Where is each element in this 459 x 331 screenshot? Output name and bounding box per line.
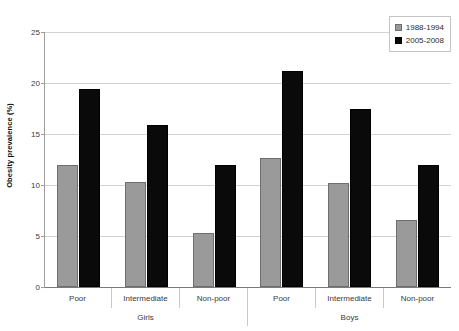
y-axis-title-label: Obesity prevalence (%) [5,103,14,188]
legend-item-1988-1994: 1988-1994 [395,21,444,34]
y-tick-label-20: 20 [18,79,40,88]
y-tick-label-5: 5 [18,232,40,241]
bar-boys-non-poor-1988-1994 [396,220,417,287]
category-label-boys-intermediate: Intermediate [316,288,384,308]
category-label-boys-poor: Poor [248,288,316,308]
category-label-girls-non-poor: Non-poor [180,288,248,308]
bar-girls-intermediate-1988-1994 [125,182,146,287]
bar-group-boys-intermediate [316,32,384,287]
obesity-prevalence-bar-chart: Obesity prevalence (%) 25 20 15 10 5 0 [0,0,459,331]
bar-group-boys-poor [248,32,316,287]
y-axis-tick-labels: 25 20 15 10 5 0 [18,0,40,331]
y-tick-label-25: 25 [18,28,40,37]
supergroup-label-boys: Boys [248,308,451,326]
y-axis-title: Obesity prevalence (%) [2,0,16,290]
bar-boys-poor-2005-2008 [282,71,303,287]
bar-group-girls-intermediate [113,32,181,287]
category-label-girls-intermediate: Intermediate [112,288,180,308]
bar-boys-non-poor-2005-2008 [418,165,439,287]
supergroup-axis-labels: Girls Boys [44,308,451,326]
bar-girls-intermediate-2005-2008 [147,125,168,287]
legend-swatch-icon-1988-1994 [395,24,402,31]
bar-boys-intermediate-1988-1994 [328,183,349,287]
bar-group-boys-non-poor [383,32,451,287]
bar-girls-non-poor-1988-1994 [193,233,214,287]
plot-area [44,32,451,288]
legend-label-2005-2008: 2005-2008 [406,36,444,45]
bar-girls-non-poor-2005-2008 [215,165,236,287]
bar-group-girls-non-poor [180,32,248,287]
legend: 1988-1994 2005-2008 [389,16,451,52]
bar-boys-intermediate-2005-2008 [350,109,371,288]
category-axis-labels: Poor Intermediate Non-poor Poor Intermed… [44,288,451,308]
y-tick-label-15: 15 [18,130,40,139]
supergroup-label-girls: Girls [44,308,248,326]
bar-boys-poor-1988-1994 [260,158,281,287]
y-tick-label-10: 10 [18,181,40,190]
legend-label-1988-1994: 1988-1994 [406,23,444,32]
bar-girls-poor-2005-2008 [79,89,100,287]
legend-swatch-icon-2005-2008 [395,37,402,44]
y-tick-label-0: 0 [18,283,40,292]
category-label-girls-poor: Poor [44,288,112,308]
bar-girls-poor-1988-1994 [57,165,78,287]
category-label-boys-non-poor: Non-poor [384,288,451,308]
legend-item-2005-2008: 2005-2008 [395,34,444,47]
bar-groups [45,32,451,287]
bar-group-girls-poor [45,32,113,287]
